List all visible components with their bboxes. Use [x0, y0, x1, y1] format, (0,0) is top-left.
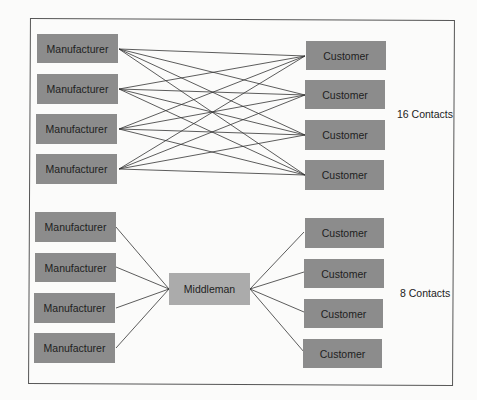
- box-label: Manufacturer: [45, 221, 107, 233]
- box-label: Manufacturer: [46, 163, 108, 175]
- middleman-box: Middleman: [169, 273, 250, 305]
- box-label: Customer: [322, 89, 368, 101]
- bottom-manufacturer-2: Manufacturer: [35, 253, 116, 282]
- bottom-manufacturer-1: Manufacturer: [35, 212, 116, 242]
- box-label: Manufacturer: [47, 43, 109, 55]
- direct-connections: [119, 49, 305, 175]
- box-label: Customer: [322, 169, 368, 181]
- top-manufacturer-2: Manufacturer: [37, 74, 118, 104]
- box-label: Customer: [322, 227, 368, 239]
- top-contacts-label: 16 Contacts: [397, 108, 453, 120]
- box-label: Manufacturer: [47, 83, 109, 95]
- box-label: Customer: [321, 308, 367, 320]
- box-label: Manufacturer: [45, 262, 107, 274]
- bottom-manufacturer-4: Manufacturer: [34, 333, 115, 363]
- top-customer-4: Customer: [305, 160, 384, 190]
- bottom-customer-4: Customer: [303, 339, 382, 368]
- bottom-manufacturer-3: Manufacturer: [34, 293, 115, 323]
- bottom-contacts-label: 8 Contacts: [400, 287, 450, 299]
- top-customer-1: Customer: [306, 41, 386, 70]
- top-customer-3: Customer: [305, 120, 385, 150]
- bottom-customer-2: Customer: [304, 259, 384, 288]
- box-label: Middleman: [184, 283, 235, 295]
- box-label: Customer: [320, 348, 366, 360]
- box-label: Customer: [321, 268, 367, 280]
- top-manufacturer-4: Manufacturer: [36, 154, 117, 184]
- box-label: Customer: [322, 129, 368, 141]
- top-customer-2: Customer: [305, 80, 385, 109]
- bottom-customer-3: Customer: [304, 299, 383, 328]
- box-label: Customer: [323, 50, 369, 62]
- box-label: Manufacturer: [44, 302, 106, 314]
- top-manufacturer-1: Manufacturer: [37, 34, 118, 63]
- top-manufacturer-3: Manufacturer: [36, 114, 117, 144]
- box-label: Manufacturer: [46, 123, 108, 135]
- bottom-customer-1: Customer: [305, 218, 384, 248]
- box-label: Manufacturer: [44, 342, 106, 354]
